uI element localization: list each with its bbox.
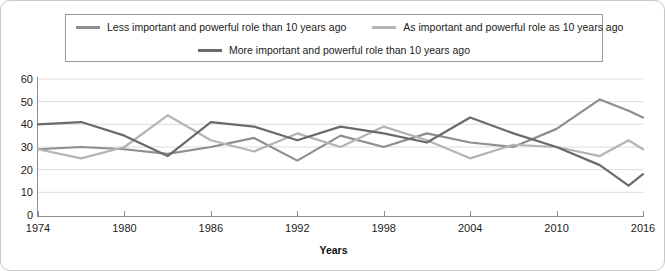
legend-item-more-important: More important and powerful role than 10…: [198, 45, 470, 56]
y-tick-label-20: 20: [21, 164, 33, 175]
legend-label-as-important: As important and powerful role as 10 yea…: [403, 22, 623, 33]
legend-row-bottom: More important and powerful role than 10…: [66, 40, 602, 61]
plot-area: [38, 79, 643, 215]
legend-line-swatch-icon: [198, 49, 222, 52]
x-tick-label-2004: 2004: [458, 223, 482, 234]
chart-legend: Less important and powerful role than 10…: [65, 14, 603, 62]
x-tick-mark-2004: [470, 211, 471, 217]
legend-item-as-important: As important and powerful role as 10 yea…: [372, 22, 623, 33]
x-tick-mark-1998: [384, 211, 385, 217]
y-tick-label-0: 0: [27, 210, 33, 221]
x-tick-mark-1980: [124, 211, 125, 217]
legend-row-top: Less important and powerful role than 10…: [66, 15, 602, 40]
x-tick-label-1980: 1980: [112, 223, 136, 234]
x-tick-mark-1992: [297, 211, 298, 217]
y-tick-label-60: 60: [21, 74, 33, 85]
x-tick-label-2010: 2010: [544, 223, 568, 234]
x-tick-mark-1974: [38, 211, 39, 217]
legend-item-less-important: Less important and powerful role than 10…: [76, 22, 346, 33]
series-lines: [38, 79, 643, 215]
legend-label-less-important: Less important and powerful role than 10…: [107, 22, 346, 33]
y-tick-label-30: 30: [21, 142, 33, 153]
y-tick-label-40: 40: [21, 119, 33, 130]
y-tick-label-10: 10: [21, 187, 33, 198]
legend-label-more-important: More important and powerful role than 10…: [229, 45, 470, 56]
x-axis-line: [37, 216, 644, 217]
x-tick-label-1992: 1992: [285, 223, 309, 234]
x-tick-mark-1986: [211, 211, 212, 217]
x-tick-label-1974: 1974: [26, 223, 50, 234]
legend-line-swatch-icon: [372, 26, 396, 29]
x-tick-mark-2010: [557, 211, 558, 217]
x-tick-label-1986: 1986: [199, 223, 223, 234]
y-tick-label-50: 50: [21, 96, 33, 107]
x-tick-label-2016: 2016: [631, 223, 655, 234]
x-tick-mark-2016: [643, 211, 644, 217]
legend-line-swatch-icon: [76, 26, 100, 29]
x-axis-title: Years: [1, 244, 665, 256]
chart-container: Less important and powerful role than 10…: [0, 0, 665, 271]
x-tick-label-1998: 1998: [371, 223, 395, 234]
